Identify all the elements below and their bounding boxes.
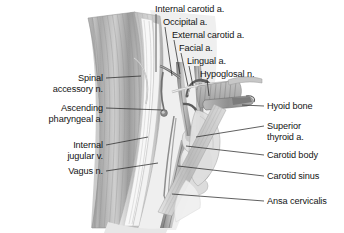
label-carotid-body: Carotid body [267, 150, 318, 160]
label-lingual-a: Lingual a. [187, 56, 226, 66]
label-external-carotid-a: External carotid a. [172, 30, 244, 40]
label-carotid-sinus: Carotid sinus [267, 171, 319, 181]
label-hypoglosal-n: Hypoglosal n. [200, 69, 254, 79]
label-superior-thyroid-a-line2: thyroid a. [267, 132, 304, 142]
label-facial-a: Facial a. [179, 43, 213, 53]
label-internal-jugular-v-line1: Internal [0, 140, 103, 150]
label-internal-carotid-a: Internal carotid a. [155, 4, 224, 14]
label-hyoid-bone: Hyoid bone [267, 101, 312, 111]
label-ascending-pharyngeal-a-line1: Ascending [0, 103, 103, 113]
label-ascending-pharyngeal-a-line2: pharyngeal a. [0, 114, 103, 124]
label-ansa-cervicalis: Ansa cervicalis [267, 196, 327, 206]
label-vagus-n: Vagus n. [0, 166, 103, 176]
label-occipital-a: Occipital a. [163, 17, 207, 27]
anatomy-figure: Internal carotid a. Occipital a. Externa… [0, 0, 344, 233]
label-superior-thyroid-a-line1: Superior [267, 121, 301, 131]
label-spinal-accessory-n-line1: Spinal [0, 73, 103, 83]
label-spinal-accessory-n-line2: accessory n. [0, 84, 103, 94]
label-internal-jugular-v-line2: jugular v. [0, 151, 103, 161]
